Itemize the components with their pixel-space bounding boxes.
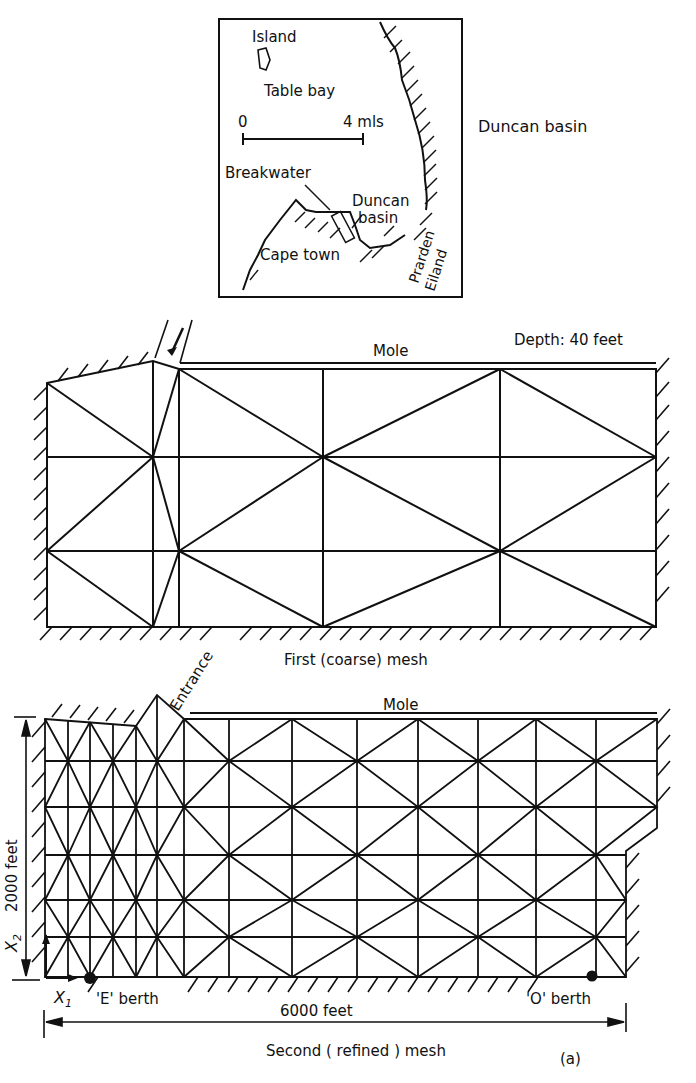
figure-tag: (a) [560, 1050, 581, 1068]
breakwater-leader [305, 185, 330, 210]
label-duncan-basin-side: Duncan basin [478, 117, 587, 136]
scale-zero: 0 [238, 113, 248, 131]
coarse-mole-label: Mole [373, 342, 409, 360]
coarse-mesh [47, 361, 656, 627]
dimension-right-arrow-icon [608, 1018, 624, 1026]
depth-label: Depth: 40 feet [514, 331, 623, 349]
dimension-up-arrow-icon [22, 720, 30, 736]
o-berth-marker-icon [587, 971, 598, 982]
coarse-mesh-outline [47, 361, 656, 627]
island-shape [258, 48, 270, 70]
e-berth-marker-icon [84, 972, 96, 984]
refined-mesh [45, 695, 657, 977]
inset-map: Island Table bay 0 4 mls Breakwater Dunc… [219, 19, 462, 297]
label-duncan: Duncan [352, 192, 410, 210]
label-table-bay: Table bay [263, 82, 335, 100]
dimension-left-arrow-icon [46, 1018, 62, 1026]
x2-axis-label: X2 [2, 934, 24, 953]
o-berth-label: 'O' berth [526, 990, 591, 1008]
label-breakwater: Breakwater [225, 164, 312, 182]
coarse-mesh-caption: First (coarse) mesh [284, 651, 428, 669]
label-basin: basin [358, 209, 398, 227]
x1-axis-label: X1 [53, 988, 72, 1010]
entrance-arrowhead-icon [167, 347, 177, 356]
refined-wall-hatching [32, 704, 670, 992]
height-dimension-label: 2000 feet [3, 839, 21, 912]
refined-mesh-caption: Second ( refined ) mesh [266, 1042, 446, 1060]
x1-arrowhead-icon [68, 974, 78, 982]
x2-arrowhead-icon [42, 934, 50, 944]
scale-end: 4 mls [343, 113, 384, 131]
width-dimension-label: 6000 feet [280, 1002, 353, 1020]
label-cape-town: Cape town [260, 246, 340, 264]
east-coastline [380, 22, 427, 210]
figure-canvas: Island Table bay 0 4 mls Breakwater Dunc… [0, 0, 696, 1083]
label-island: Island [252, 28, 297, 46]
dimension-down-arrow-icon [22, 960, 30, 976]
e-berth-label: 'E' berth [96, 990, 159, 1008]
refined-mole-label: Mole [383, 696, 419, 714]
entrance-label: Entrance [166, 648, 217, 715]
